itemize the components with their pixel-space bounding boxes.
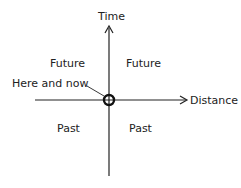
distance-axis-label: Distance [190,95,238,107]
quadrant-upper-left-label: Future [50,58,85,70]
time-axis-label: Time [98,11,125,23]
quadrant-upper-right-label: Future [126,58,161,70]
quadrant-lower-left-label: Past [57,123,80,135]
quadrant-lower-right-label: Past [129,123,152,135]
origin-label: Here and now [12,78,88,90]
origin-leader-line [87,86,104,96]
